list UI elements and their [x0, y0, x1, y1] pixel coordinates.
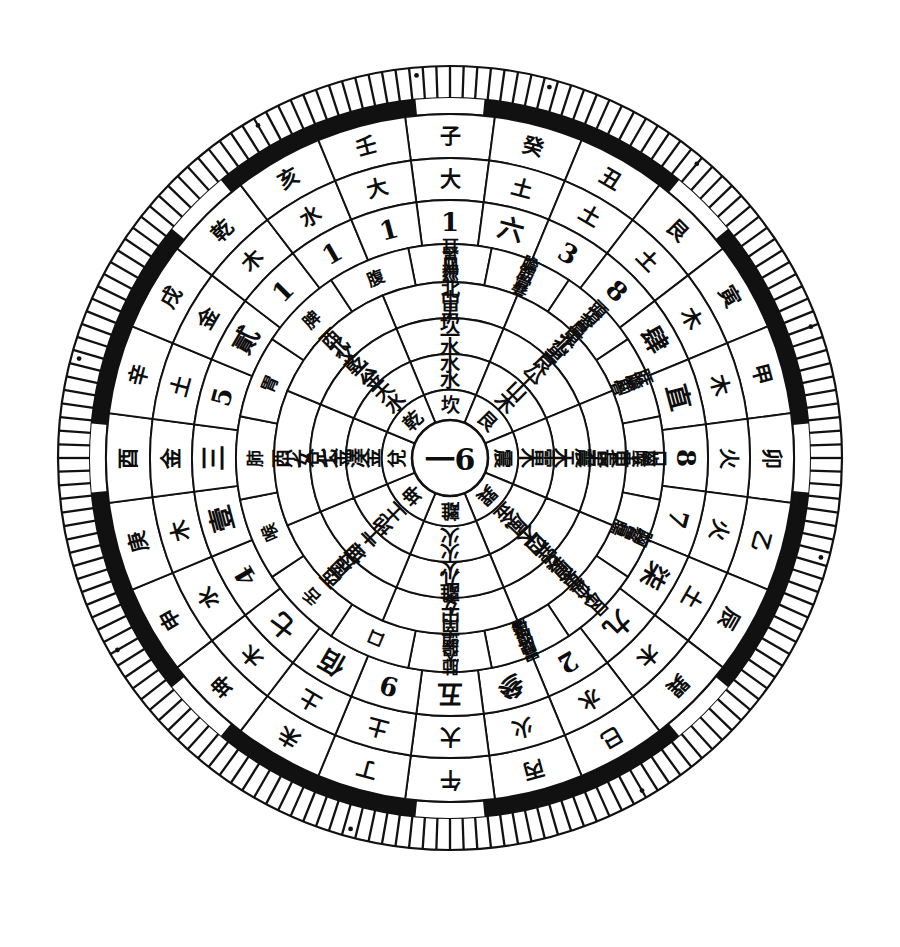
- degree-tick: [755, 250, 782, 267]
- degree-tick: [768, 627, 796, 642]
- degree-tick: [382, 813, 388, 845]
- ring-cell-label: 三: [199, 445, 229, 471]
- ring-cell-label: 金: [159, 447, 183, 470]
- degree-tick: [125, 239, 152, 257]
- degree-tick: [70, 363, 101, 371]
- degree-tick: [67, 376, 98, 383]
- degree-tick: [254, 770, 270, 798]
- degree-tick: [92, 299, 121, 312]
- degree-tick: [651, 133, 669, 160]
- degree-tick: [734, 217, 759, 237]
- ring-cell: 大: [411, 714, 489, 758]
- degree-tick: [805, 521, 837, 527]
- degree-tick: [159, 699, 183, 720]
- degree-tick: [111, 262, 139, 278]
- degree-tick: [608, 106, 622, 135]
- degree-tick: [796, 350, 827, 359]
- ring-cell: 三: [192, 424, 238, 491]
- degree-tick: [537, 807, 545, 838]
- degree-tick: [709, 708, 732, 730]
- degree-tick: [82, 581, 112, 592]
- ring-cell-label-group: 子: [440, 124, 461, 148]
- degree-tick: [111, 638, 139, 654]
- ring-cell-label: 坎: [441, 394, 460, 416]
- degree-tick: [329, 800, 339, 830]
- degree-tick: [681, 158, 702, 183]
- rim-dot-marker: [819, 555, 824, 560]
- degree-tick: [662, 141, 681, 167]
- degree-tick: [573, 796, 584, 826]
- rim-dot-marker: [348, 827, 353, 832]
- degree-tick: [118, 649, 145, 666]
- degree-tick: [159, 196, 183, 217]
- degree-tick: [500, 70, 504, 102]
- degree-tick: [382, 72, 388, 104]
- degree-tick: [662, 749, 681, 775]
- ring-cell: 火: [706, 419, 750, 497]
- degree-tick: [329, 85, 339, 115]
- ring-cell-label-group: 8: [671, 449, 701, 467]
- rim-dot-marker: [115, 648, 120, 653]
- degree-tick: [198, 734, 219, 759]
- degree-tick: [409, 68, 412, 100]
- degree-tick: [810, 444, 842, 445]
- degree-tick: [423, 817, 425, 849]
- degree-tick: [488, 816, 491, 848]
- ring-cell: 卯: [747, 413, 794, 503]
- degree-tick: [141, 680, 166, 700]
- ring-cell-label: 午: [440, 768, 461, 792]
- degree-tick: [788, 324, 818, 335]
- center-disc[interactable]: 一6: [412, 420, 488, 496]
- ring-cell: 子: [405, 114, 495, 161]
- degree-tick: [779, 604, 808, 617]
- degree-tick: [58, 444, 90, 445]
- degree-tick: [718, 196, 742, 217]
- degree-tick: [475, 67, 477, 99]
- ring-cell-label: 卯: [760, 448, 784, 469]
- degree-tick: [368, 810, 375, 841]
- ring-cell: 午: [405, 755, 495, 802]
- degree-tick: [198, 158, 219, 183]
- degree-tick: [809, 431, 841, 433]
- degree-tick: [463, 818, 464, 850]
- degree-tick: [799, 545, 830, 553]
- degree-tick: [802, 533, 833, 540]
- degree-tick: [209, 742, 229, 767]
- degree-tick: [700, 176, 722, 199]
- degree-tick: [150, 689, 175, 710]
- ring-cell-label-group: 雷木: [516, 447, 557, 469]
- degree-tick: [809, 483, 841, 485]
- degree-tick: [58, 471, 90, 472]
- degree-tick: [700, 717, 722, 740]
- degree-tick: [810, 471, 842, 472]
- ring-cell-label-group: 金: [159, 447, 183, 470]
- degree-tick: [488, 68, 491, 100]
- degree-tick: [774, 286, 803, 300]
- degree-tick: [734, 680, 759, 700]
- degree-tick: [59, 431, 91, 433]
- degree-tick: [802, 376, 833, 383]
- ring-cell-label: 酉: [116, 448, 140, 469]
- ring-cell-label-group: 坎: [441, 394, 460, 416]
- ring-cell-label-group: 火火: [439, 524, 460, 565]
- degree-tick: [585, 792, 597, 822]
- ring-cell-label-group: 火: [717, 448, 741, 469]
- degree-tick: [355, 78, 363, 109]
- ring-cell-label: 1: [441, 207, 459, 237]
- degree-tick: [691, 167, 712, 191]
- degree-tick: [355, 807, 363, 838]
- degree-tick: [316, 90, 327, 120]
- degree-tick: [409, 816, 412, 848]
- degree-tick: [596, 787, 609, 816]
- ring-cell-label: 8: [671, 449, 701, 467]
- degree-tick: [762, 638, 790, 654]
- ring-cell-label: 五: [437, 679, 463, 709]
- degree-tick: [741, 670, 767, 689]
- degree-tick: [133, 670, 159, 689]
- degree-tick: [513, 72, 519, 104]
- degree-tick: [242, 126, 259, 153]
- degree-tick: [77, 337, 107, 347]
- degree-tick: [561, 85, 571, 115]
- ring-cell-label: 肺: [245, 450, 265, 467]
- degree-tick: [278, 782, 292, 811]
